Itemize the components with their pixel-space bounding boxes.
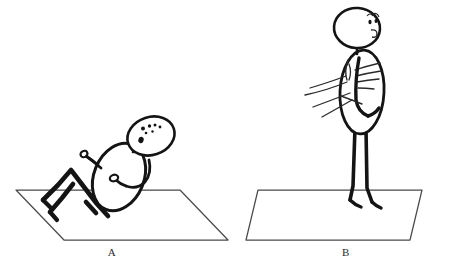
face-dot xyxy=(151,130,153,132)
eye-mark xyxy=(368,20,371,24)
face-dot xyxy=(145,132,148,135)
panel-b-label: B xyxy=(331,246,361,258)
two-panel-exercise-illustration xyxy=(0,0,453,274)
face-dot xyxy=(141,127,145,131)
face-dot xyxy=(159,126,162,129)
canvas-background xyxy=(0,0,453,274)
eye-mark xyxy=(375,19,378,23)
illustration-page: A B xyxy=(0,0,453,274)
face-dot xyxy=(148,124,151,127)
panel-a-label: A xyxy=(97,246,127,258)
face-dot xyxy=(154,124,157,127)
